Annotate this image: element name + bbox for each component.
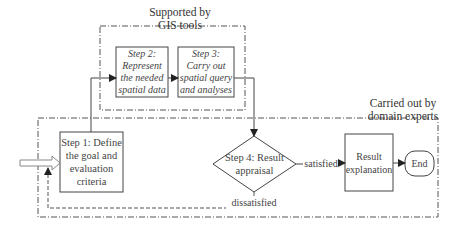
step2-line: Represent — [122, 60, 162, 72]
step1-line: the goal and — [66, 149, 117, 162]
satisfied-label: satisfied — [302, 157, 340, 170]
step3-text: Step 3: Carry out spatial query and anal… — [178, 47, 234, 97]
gis-group-label: Supported by GIS tools — [120, 6, 240, 32]
result-line: Result — [356, 150, 382, 163]
step4-text: Step 4: Result appraisal — [213, 150, 296, 178]
experts-group-label: Carried out by domain experts — [350, 97, 456, 123]
step1-line: Step 1: Define — [61, 136, 122, 149]
flowchart: Supported by GIS tools Carried out by do… — [0, 0, 456, 230]
step3-line: and analyses — [180, 84, 232, 96]
step3-line: Step 3: — [192, 48, 220, 60]
result-line: explanation — [346, 163, 393, 176]
step1-text: Step 1: Define the goal and evaluation c… — [60, 132, 123, 192]
edge-step3-step4 — [234, 78, 254, 136]
input-arrow — [20, 156, 60, 170]
edge-step1-step2 — [91, 78, 116, 132]
step3-line: Carry out — [186, 60, 225, 72]
experts-label-line2: domain experts — [350, 110, 456, 123]
gis-label-line1: Supported by — [120, 6, 240, 19]
step2-line: spatial data — [118, 84, 166, 96]
gis-label-line2: GIS tools — [120, 19, 240, 32]
result-text: Result explanation — [345, 134, 393, 191]
step4-line: appraisal — [236, 164, 274, 177]
step3-line: spatial query — [180, 72, 233, 84]
step1-line: criteria — [77, 175, 107, 188]
step1-line: evaluation — [70, 162, 114, 175]
end-text: End — [405, 151, 434, 176]
dissatisfied-label: dissatisfied — [226, 196, 282, 209]
step4-line: Step 4: Result — [225, 151, 284, 164]
experts-label-line1: Carried out by — [350, 97, 456, 110]
step2-line: the needed — [120, 72, 163, 84]
step2-text: Step 2: Represent the needed spatial dat… — [116, 47, 168, 97]
step2-line: Step 2: — [128, 48, 156, 60]
